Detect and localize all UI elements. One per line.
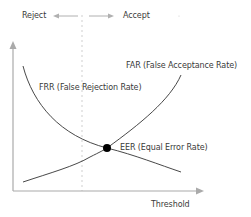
x-axis-label: Threshold xyxy=(151,200,190,210)
diagram-canvas xyxy=(0,0,251,217)
reject-arrow-icon xyxy=(53,14,78,19)
y-axis-arrow-icon xyxy=(10,41,17,49)
frr-curve xyxy=(23,66,181,172)
y-axis xyxy=(10,41,17,191)
x-axis xyxy=(13,188,204,195)
frr-curve-label: FRR (False Rejection Rate) xyxy=(39,83,141,93)
reject-label: Reject xyxy=(22,11,46,21)
eer-point-marker xyxy=(103,144,111,152)
x-axis-arrow-icon xyxy=(196,188,204,195)
eer-label: EER (Equal Error Rate) xyxy=(120,143,208,153)
far-curve-label: FAR (False Acceptance Rate) xyxy=(126,61,237,71)
accept-arrow-icon xyxy=(89,14,114,19)
decorative-dot xyxy=(178,15,179,16)
eer-diagram: Reject Accept FAR (False Acceptance Rate… xyxy=(0,0,251,217)
accept-label: Accept xyxy=(123,11,150,21)
